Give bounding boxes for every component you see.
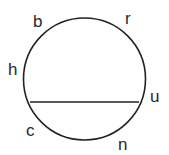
- circle-outline: [24, 18, 146, 140]
- point-label-h: h: [8, 60, 17, 79]
- point-label-r: r: [125, 9, 131, 28]
- circle-diagram: b r h u c n: [0, 0, 169, 155]
- point-label-n: n: [118, 135, 127, 154]
- point-label-c: c: [26, 121, 35, 140]
- point-label-b: b: [33, 12, 42, 31]
- diagram-canvas: b r h u c n: [0, 0, 169, 155]
- point-label-u: u: [150, 87, 159, 106]
